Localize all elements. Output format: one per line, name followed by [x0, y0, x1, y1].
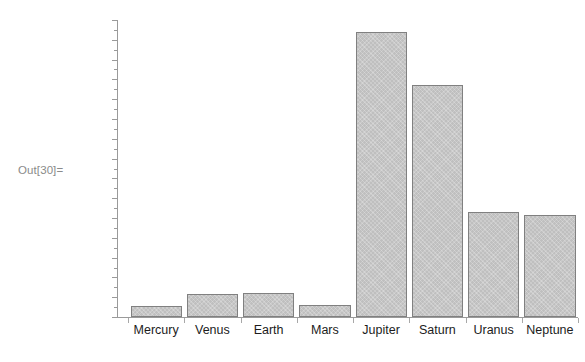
y-tick-minor: [114, 89, 118, 90]
category-label-mercury: Mercury: [128, 322, 184, 338]
category-label-jupiter: Jupiter: [353, 322, 409, 338]
y-tick-minor: [114, 149, 118, 150]
y-tick-minor: [114, 248, 118, 249]
category-label-venus: Venus: [184, 322, 240, 338]
y-tick-major: [112, 79, 118, 80]
bar-saturn[interactable]: [412, 85, 463, 317]
bar-earth[interactable]: [243, 293, 294, 317]
y-tick-major: [112, 297, 118, 298]
y-tick-major: [112, 159, 118, 160]
y-tick-major: [112, 20, 118, 21]
y-tick-major: [112, 238, 118, 239]
y-tick-major: [112, 317, 118, 318]
bar-uranus[interactable]: [468, 212, 519, 317]
category-label-saturn: Saturn: [409, 322, 465, 338]
category-label-neptune: Neptune: [522, 322, 578, 338]
x-tick: [578, 318, 579, 323]
y-tick-minor: [114, 69, 118, 70]
y-tick-major: [112, 139, 118, 140]
y-tick-major: [112, 178, 118, 179]
y-tick-major: [112, 40, 118, 41]
y-tick-minor: [114, 268, 118, 269]
bar-neptune[interactable]: [524, 215, 575, 317]
y-tick-minor: [114, 129, 118, 130]
y-tick-minor: [114, 188, 118, 189]
y-tick-major: [112, 60, 118, 61]
y-tick-minor: [114, 109, 118, 110]
bar-chart: MercuryVenusEarthMarsJupiterSaturnUranus…: [0, 0, 585, 362]
y-tick-minor: [114, 30, 118, 31]
y-tick-major: [112, 198, 118, 199]
bar-jupiter[interactable]: [356, 32, 407, 317]
category-label-mars: Mars: [297, 322, 353, 338]
y-tick-minor: [114, 228, 118, 229]
y-tick-major: [112, 218, 118, 219]
y-tick-minor: [114, 169, 118, 170]
y-tick-minor: [114, 287, 118, 288]
y-tick-minor: [114, 50, 118, 51]
category-label-earth: Earth: [241, 322, 297, 338]
y-tick-minor: [114, 307, 118, 308]
bar-mercury[interactable]: [131, 306, 182, 317]
category-label-uranus: Uranus: [466, 322, 522, 338]
bar-mars[interactable]: [299, 305, 350, 317]
bar-venus[interactable]: [187, 294, 238, 317]
x-axis-line: [117, 317, 578, 318]
y-tick-major: [112, 258, 118, 259]
y-tick-major: [112, 119, 118, 120]
y-tick-major: [112, 99, 118, 100]
y-tick-minor: [114, 208, 118, 209]
y-tick-major: [112, 277, 118, 278]
